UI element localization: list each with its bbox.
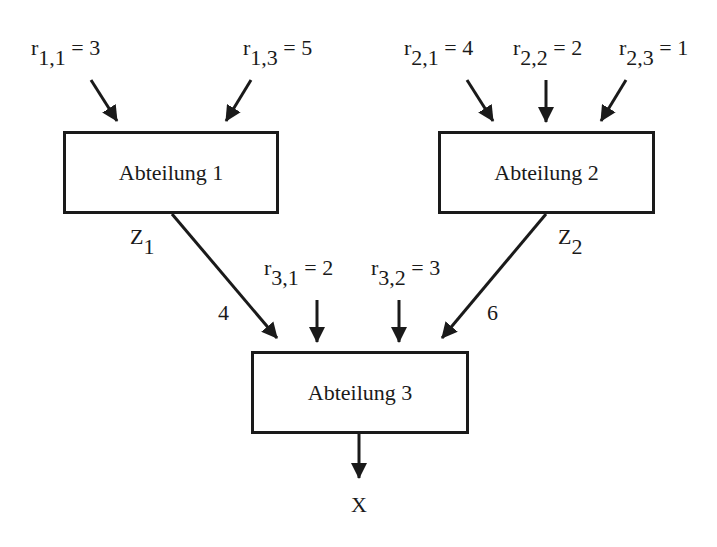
input-label-r32: r3,2 = 3: [371, 257, 440, 289]
input-label-r23: r2,3 = 1: [619, 37, 688, 69]
department-label: Abteilung 1: [119, 160, 224, 186]
input-label-r22: r2,2 = 2: [513, 37, 582, 69]
arrow-r23: [601, 80, 626, 121]
department-box-1: Abteilung 1: [63, 131, 279, 214]
department-box-3: Abteilung 3: [251, 351, 469, 434]
department-box-2: Abteilung 2: [438, 131, 655, 214]
arrow-r13: [226, 80, 251, 121]
intermediate-label-z1: Z1: [130, 226, 154, 258]
input-label-r11: r1,1 = 3: [31, 37, 100, 69]
intermediate-qty-z2: 6: [487, 302, 498, 324]
input-label-r21: r2,1 = 4: [404, 37, 473, 69]
intermediate-label-z2: Z2: [558, 226, 582, 258]
diagram-arrows: [0, 0, 717, 547]
department-label: Abteilung 2: [494, 160, 599, 186]
department-label: Abteilung 3: [308, 380, 413, 406]
intermediate-qty-z1: 4: [218, 302, 229, 324]
arrow-r21: [467, 80, 493, 121]
input-label-r31: r3,1 = 2: [264, 257, 333, 289]
arrow-r11: [91, 80, 117, 121]
output-label-x: X: [351, 494, 367, 516]
input-label-r13: r1,3 = 5: [243, 37, 312, 69]
